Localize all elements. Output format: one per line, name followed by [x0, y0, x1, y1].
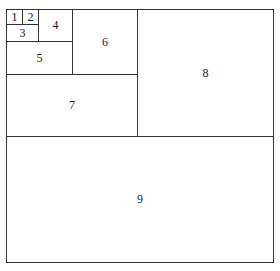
cell-label: 1 [12, 10, 18, 25]
cell-9: 9 [6, 136, 274, 263]
cell-6: 6 [72, 9, 138, 75]
cell-1: 1 [6, 9, 23, 25]
cell-label: 2 [28, 10, 34, 25]
cell-8: 8 [137, 9, 274, 137]
cell-label: 7 [69, 98, 75, 113]
cell-label: 8 [203, 66, 209, 81]
cell-label: 6 [102, 35, 108, 50]
cell-3: 3 [6, 24, 39, 42]
cell-label: 9 [137, 192, 143, 207]
cell-7: 7 [6, 74, 138, 137]
cell-label: 3 [20, 26, 26, 41]
cell-5: 5 [6, 41, 73, 75]
cell-label: 5 [37, 51, 43, 66]
cell-2: 2 [22, 9, 39, 25]
cell-4: 4 [38, 9, 73, 42]
cell-label: 4 [53, 18, 59, 33]
